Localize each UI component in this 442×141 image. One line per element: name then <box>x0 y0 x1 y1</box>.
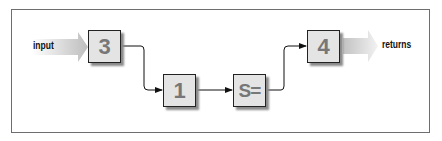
returns-label: returns <box>382 39 411 50</box>
node-s-equals: S= <box>233 74 266 107</box>
node-4: 4 <box>307 30 340 63</box>
connectors <box>0 0 442 141</box>
node-3: 3 <box>88 30 121 63</box>
input-label: input <box>33 40 54 51</box>
output-arrow <box>343 30 378 62</box>
node-1: 1 <box>163 74 196 107</box>
